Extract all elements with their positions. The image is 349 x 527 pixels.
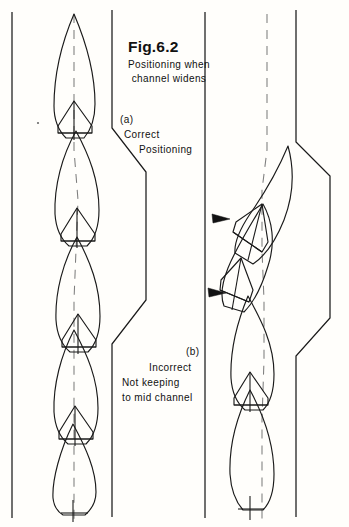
drift-arrowhead-upper	[212, 214, 230, 223]
panel-b-line1-label: Incorrect	[149, 362, 192, 373]
panel-a-right-bank	[112, 10, 146, 517]
panel-a-tag-label: (a)	[120, 114, 133, 125]
superstructure	[233, 204, 268, 252]
panel-a-ship-2	[55, 131, 99, 248]
panel-b-line2-label: Not keeping	[122, 377, 180, 388]
panel-b-right-bank	[296, 10, 330, 517]
panel-b-line3-label: to mid channel	[122, 392, 193, 403]
hull-outline	[230, 390, 274, 510]
superstructure	[220, 258, 253, 302]
superstructure	[62, 314, 96, 347]
superstructure	[58, 101, 92, 133]
figure-container: Fig.6.2 Positioning when channel widens …	[0, 0, 349, 527]
drift-arrowhead-lower	[208, 288, 226, 297]
superstructure	[59, 406, 93, 439]
panel-a-line2-label: Positioning	[139, 144, 192, 155]
panel-b-tag-label: (b)	[186, 346, 199, 357]
figure-subtitle-label: Positioning when channel widens	[117, 58, 221, 85]
panel-b-mid-channel-line	[262, 14, 267, 522]
paper-speck	[37, 122, 39, 124]
figure-number-label: Fig.6.2	[128, 38, 179, 56]
panel-b-drift-markers	[208, 214, 230, 297]
stern-bar	[220, 290, 249, 302]
panel-a-line1-label: Correct	[124, 129, 160, 140]
